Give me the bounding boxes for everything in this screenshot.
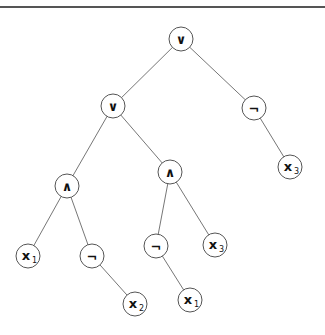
- tree-node-variable: x1: [178, 288, 202, 312]
- node-subscript: 1: [194, 300, 199, 309]
- node-label: ∧: [165, 165, 176, 180]
- tree-edge: [181, 39, 254, 108]
- expression-tree: ∨∨¬∧∧x3x1¬¬x3x2x1: [0, 0, 325, 335]
- tree-edge: [67, 106, 113, 186]
- node-label: ¬: [249, 101, 260, 116]
- node-label: ∧: [62, 179, 73, 194]
- tree-edge: [113, 106, 170, 172]
- node-label: x: [284, 159, 293, 174]
- node-label: x: [209, 237, 218, 252]
- node-subscript: 1: [32, 256, 37, 265]
- tree-node-variable: x2: [123, 292, 147, 316]
- tree-node-not: ¬: [80, 244, 104, 268]
- node-label: ¬: [151, 239, 162, 254]
- node-label: x: [184, 292, 193, 307]
- node-label: ∨: [108, 99, 119, 114]
- node-label: x: [22, 248, 31, 263]
- tree-node-variable: x3: [203, 233, 227, 257]
- node-label: x: [129, 296, 138, 311]
- tree-node-or: ∨: [101, 94, 125, 118]
- tree-node-not: ¬: [144, 234, 168, 258]
- node-subscript: 2: [139, 304, 144, 313]
- node-subscript: 3: [294, 167, 299, 176]
- tree-node-not: ¬: [242, 96, 266, 120]
- tree-node-variable: x3: [278, 155, 302, 179]
- tree-node-variable: x1: [16, 244, 40, 268]
- tree-node-or: ∨: [169, 27, 193, 51]
- tree-edge: [113, 39, 181, 106]
- tree-node-and: ∧: [55, 174, 79, 198]
- node-subscript: 3: [219, 245, 224, 254]
- tree-edge: [170, 172, 215, 245]
- node-label: ∨: [176, 32, 187, 47]
- node-label: ¬: [87, 249, 98, 264]
- tree-node-and: ∧: [158, 160, 182, 184]
